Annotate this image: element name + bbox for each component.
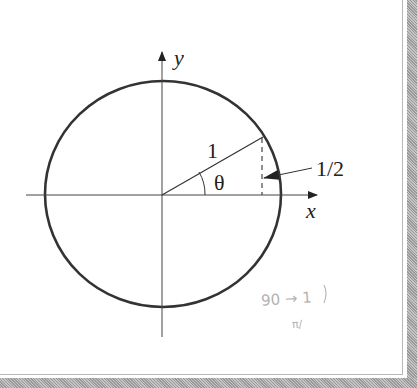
- unit-circle-diagram: [0, 0, 417, 388]
- handwritten-note-line1: 90 → 1: [260, 288, 312, 309]
- height-label: 1/2: [316, 158, 344, 180]
- angle-label: θ: [214, 172, 225, 194]
- y-axis-label: y: [174, 47, 184, 69]
- handwritten-bracket: [324, 285, 326, 303]
- x-axis-label: x: [306, 200, 316, 222]
- radius-label: 1: [207, 140, 218, 162]
- half-pointer-arrow: [264, 168, 312, 178]
- angle-arc: [199, 172, 205, 195]
- handwritten-note-line2: π/: [292, 318, 303, 332]
